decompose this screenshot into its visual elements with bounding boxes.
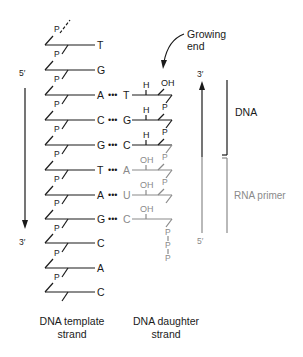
daughter-caption: DNA daughter	[133, 315, 199, 327]
dna-replication-diagram: P P P P P P P P P P P T G A C G T A G C …	[0, 0, 303, 357]
triphosphate-tail: P P P	[165, 227, 171, 263]
svg-text:C: C	[97, 237, 105, 249]
template-caption: DNA template	[40, 315, 105, 327]
svg-text:strand: strand	[57, 328, 86, 340]
arrow-down-icon	[22, 220, 28, 229]
svg-text:G: G	[97, 213, 105, 225]
daughter-bases: T G C A U C	[123, 89, 131, 225]
svg-text:G: G	[97, 139, 105, 151]
svg-text:T: T	[123, 89, 130, 101]
rna-primer-label: RNA primer	[234, 190, 286, 201]
svg-text:P: P	[54, 223, 60, 233]
svg-text:P: P	[165, 227, 171, 237]
svg-text:H: H	[143, 80, 150, 90]
daughter-direction-arrow: 3′ 5′	[197, 69, 205, 246]
svg-text:P: P	[54, 99, 60, 109]
curved-arrow-icon	[164, 34, 184, 62]
svg-text:OH: OH	[140, 204, 154, 214]
dna-bracket-label: DNA	[235, 106, 257, 118]
svg-text:C: C	[97, 114, 105, 126]
svg-text:•••: •••	[108, 165, 117, 175]
svg-text:P: P	[162, 177, 168, 187]
svg-text:OH: OH	[140, 180, 154, 190]
svg-text:P: P	[54, 24, 60, 34]
svg-text:G: G	[123, 114, 131, 126]
growing-end-annotation: Growing end	[161, 28, 226, 69]
svg-text:T: T	[97, 39, 104, 51]
svg-text:A: A	[123, 164, 130, 176]
svg-text:G: G	[97, 64, 105, 76]
svg-text:•••: •••	[108, 115, 117, 125]
svg-text:OH: OH	[140, 155, 154, 165]
svg-text:strand: strand	[151, 328, 180, 340]
svg-text:•••: •••	[108, 140, 117, 150]
svg-text:U: U	[123, 189, 131, 201]
svg-text:H: H	[143, 105, 150, 115]
svg-text:P: P	[165, 253, 171, 263]
svg-text:P: P	[162, 127, 168, 137]
svg-text:A: A	[97, 189, 104, 201]
svg-text:P: P	[162, 152, 168, 162]
rna-primer-bracket	[222, 158, 227, 233]
svg-text:P: P	[54, 124, 60, 134]
daughter-5prime-label: 5′	[197, 236, 204, 246]
svg-text:P: P	[54, 49, 60, 59]
template-strand	[45, 20, 95, 301]
base-pair-dots: ••• ••• ••• ••• ••• •••	[108, 90, 117, 224]
template-5prime-label: 5′	[19, 68, 26, 78]
svg-text:P: P	[54, 149, 60, 159]
svg-text:P: P	[54, 248, 60, 258]
template-3prime-label: 3′	[19, 237, 26, 247]
svg-text:P: P	[162, 102, 168, 112]
svg-text:P: P	[54, 272, 60, 282]
svg-text:C: C	[97, 286, 105, 298]
template-direction-arrow: 5′ 3′	[19, 68, 28, 247]
svg-text:Growing: Growing	[187, 28, 226, 40]
svg-text:P: P	[54, 174, 60, 184]
daughter-3prime-label: 3′	[197, 69, 204, 79]
strand-captions: DNA template strand DNA daughter strand	[40, 315, 200, 340]
svg-text:OH: OH	[161, 78, 175, 88]
svg-text:P: P	[165, 240, 171, 250]
svg-text:•••: •••	[108, 214, 117, 224]
svg-text:•••: •••	[108, 90, 117, 100]
svg-text:end: end	[187, 40, 205, 52]
svg-text:P: P	[54, 198, 60, 208]
dna-bracket	[222, 80, 227, 155]
svg-text:•••: •••	[108, 190, 117, 200]
svg-text:C: C	[123, 213, 131, 225]
template-bases: T G A C G T A G C A C	[97, 39, 105, 298]
svg-text:P: P	[54, 74, 60, 84]
svg-text:A: A	[97, 262, 104, 274]
svg-text:A: A	[97, 89, 104, 101]
svg-text:T: T	[97, 164, 104, 176]
svg-text:C: C	[123, 139, 131, 151]
svg-text:H: H	[143, 130, 150, 140]
